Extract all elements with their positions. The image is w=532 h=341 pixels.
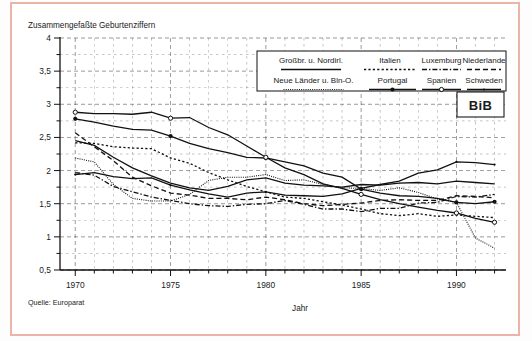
source-note: Quelle: Europarat <box>28 298 84 307</box>
y-tick-label: 3 <box>46 99 51 109</box>
data-series-layer <box>73 110 497 248</box>
data-point <box>168 134 172 138</box>
data-point <box>454 200 458 204</box>
data-point <box>73 110 77 114</box>
y-tick-label: 2,5 <box>39 132 51 142</box>
y-tick-label: 3,5 <box>39 66 51 76</box>
data-point <box>168 116 172 120</box>
y-axis-ticks <box>54 38 60 270</box>
x-axis-title: Jahr <box>292 304 308 313</box>
data-point <box>264 155 268 159</box>
x-tick-label: 1975 <box>161 280 180 290</box>
data-point <box>492 200 496 204</box>
y-tick-label: 2 <box>46 166 51 176</box>
bib-stamp: BiB <box>457 92 504 117</box>
legend-marker <box>483 88 485 90</box>
legend-marker <box>390 87 394 91</box>
chart-legend: Großbr. u. Nordirl.ItalienLuxemburgNiede… <box>257 51 506 92</box>
x-axis-tick-labels: 19701975198019851990 <box>66 280 466 290</box>
bib-stamp-label: BiB <box>469 98 493 113</box>
y-tick-label: 4 <box>46 33 51 43</box>
data-point <box>359 192 363 196</box>
x-tick-label: 1980 <box>257 280 276 290</box>
y-tick-label: 1 <box>46 232 51 242</box>
chart-figure: Zusammengefaßte Geburtenziffern 0,511,52… <box>14 6 518 334</box>
legend-label: Schweden <box>465 76 502 85</box>
data-point <box>265 191 267 193</box>
data-point <box>492 220 496 224</box>
y-axis-title: Zusammengefaßte Geburtenziffern <box>28 21 156 30</box>
data-point <box>74 173 76 175</box>
x-axis-ticks <box>75 270 494 276</box>
data-point <box>455 161 457 163</box>
y-tick-label: 0,5 <box>39 265 51 275</box>
legend-label: Luxemburg <box>421 56 461 65</box>
y-tick-label: 1,5 <box>39 199 51 209</box>
x-tick-label: 1990 <box>447 280 466 290</box>
y-axis-tick-labels: 0,511,522,533,54 <box>39 33 51 275</box>
birth-rate-line-chart: Zusammengefaßte Geburtenziffern 0,511,52… <box>14 6 518 334</box>
data-point <box>454 211 458 215</box>
x-tick-label: 1985 <box>352 280 371 290</box>
data-point <box>73 117 77 121</box>
screenshot-page: Zusammengefaßte Geburtenziffern 0,511,52… <box>0 0 532 341</box>
legend-label: Italien <box>379 56 400 65</box>
data-point <box>360 187 362 189</box>
legend-label: Portugal <box>378 76 408 85</box>
legend-label: Großbr. u. Nordirl. <box>279 56 343 65</box>
legend-marker <box>439 87 443 91</box>
data-point <box>493 164 495 166</box>
x-tick-label: 1970 <box>66 280 85 290</box>
data-point <box>169 184 171 186</box>
legend-label: Spanien <box>427 76 456 85</box>
legend-label: Niederlande <box>462 56 506 65</box>
legend-item-spanien[interactable]: Spanien <box>422 76 461 92</box>
legend-label: Neue Länder u. Bln-O. <box>273 76 353 85</box>
